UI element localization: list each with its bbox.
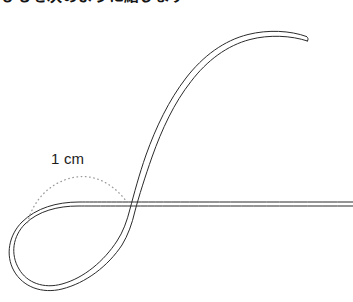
measure-label: 1 cm <box>51 149 84 168</box>
measure-arc-dotted <box>28 177 127 223</box>
diagram-page: ひもを次のように結びます 1 cm <box>0 0 353 302</box>
